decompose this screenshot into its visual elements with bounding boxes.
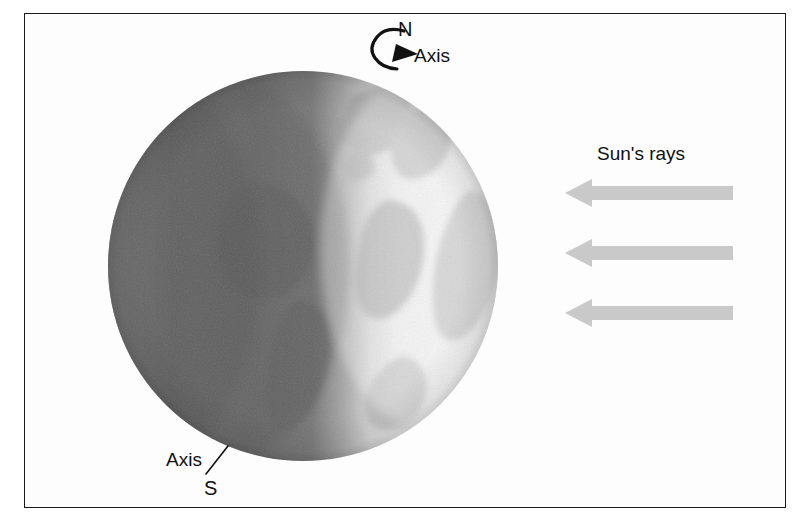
sun-ray-arrow-2: [565, 239, 733, 267]
north-pole-label: N: [398, 19, 412, 39]
axis-label-bottom: Axis: [166, 450, 202, 469]
south-pole-label: S: [204, 478, 217, 498]
sun-rays-arrows: [0, 0, 807, 529]
sun-ray-arrow-1: [565, 179, 733, 207]
sun-ray-arrow-3: [565, 299, 733, 327]
sun-rays-label: Sun's rays: [597, 144, 685, 163]
axis-label-top: Axis: [414, 46, 450, 65]
diagram-canvas: N Axis Axis S Sun's rays: [0, 0, 807, 529]
